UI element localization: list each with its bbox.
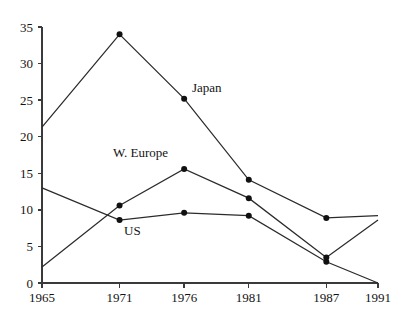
axis-lines xyxy=(42,27,378,283)
y-tick-label: 15 xyxy=(20,166,33,181)
data-point-marker xyxy=(181,166,187,172)
x-tick-label: 1971 xyxy=(107,290,133,305)
y-tick-label: 35 xyxy=(20,20,33,35)
series-label: Japan xyxy=(192,80,222,95)
data-point-marker xyxy=(323,215,329,221)
data-point-marker xyxy=(117,202,123,208)
data-point-marker xyxy=(181,210,187,216)
y-tick-label: 25 xyxy=(20,93,33,108)
data-point-marker xyxy=(117,31,123,37)
series-line xyxy=(42,34,378,218)
series-line xyxy=(42,188,378,283)
data-point-marker xyxy=(117,217,123,223)
chart-plot-area: 05101520253035 196519711976198119871991 … xyxy=(0,0,408,319)
x-tick-label: 1987 xyxy=(313,290,340,305)
x-tick-label: 1976 xyxy=(171,290,198,305)
y-tick-label: 5 xyxy=(27,239,34,254)
data-point-marker xyxy=(246,213,252,219)
data-series-group xyxy=(42,34,378,283)
line-chart: 05101520253035 196519711976198119871991 … xyxy=(0,0,408,319)
axes-group xyxy=(42,27,378,283)
data-point-marker xyxy=(246,195,252,201)
series-label: W. Europe xyxy=(113,145,168,160)
x-tick-label: 1991 xyxy=(365,290,391,305)
x-axis-ticks: 196519711976198119871991 xyxy=(29,283,391,305)
series-label: US xyxy=(124,223,141,238)
y-axis-ticks: 05101520253035 xyxy=(20,20,42,291)
data-point-marker xyxy=(323,259,329,265)
y-tick-label: 0 xyxy=(27,276,34,291)
y-tick-label: 30 xyxy=(20,56,33,71)
x-tick-label: 1965 xyxy=(29,290,55,305)
data-point-marker xyxy=(246,177,252,183)
y-tick-label: 20 xyxy=(20,129,33,144)
x-tick-label: 1981 xyxy=(236,290,262,305)
y-tick-label: 10 xyxy=(20,202,33,217)
data-point-marker xyxy=(181,96,187,102)
